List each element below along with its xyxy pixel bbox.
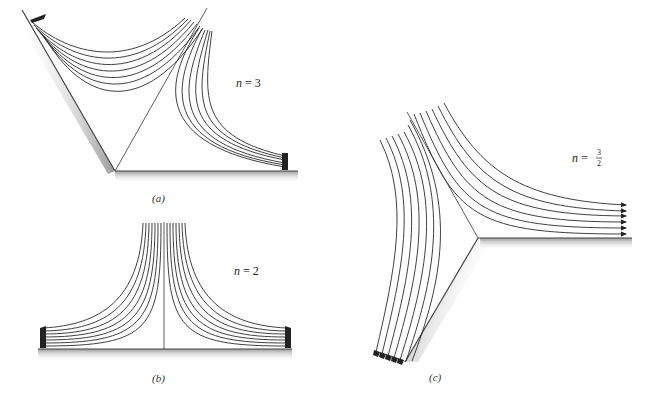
wall-shadow-c-horizontal bbox=[480, 238, 632, 250]
streamlines-right bbox=[176, 28, 285, 167]
streamlines-c-right bbox=[414, 103, 626, 234]
streamlines-b-right bbox=[167, 223, 286, 346]
label-n-2: n = 2 bbox=[234, 264, 259, 278]
wall-shadow-b bbox=[38, 349, 292, 361]
panel-a: n = 3 (a) bbox=[14, 8, 298, 205]
arrow-cluster-b-right bbox=[285, 326, 291, 348]
wall-left bbox=[22, 10, 115, 171]
panel-b: n = 2 (b) bbox=[38, 222, 292, 385]
wall-c-diagonal bbox=[405, 238, 478, 362]
dividing-streamline bbox=[115, 8, 207, 171]
arrow-cluster-c-bottom bbox=[373, 350, 404, 365]
streamlines-b-left bbox=[43, 223, 161, 346]
label-n-3: n = 3 bbox=[236, 76, 261, 90]
caption-b: (b) bbox=[152, 372, 165, 385]
arrow-cluster-a-top bbox=[30, 14, 46, 23]
label-n-3-2-denominator: 2 bbox=[597, 159, 601, 168]
caption-a: (a) bbox=[152, 192, 165, 205]
caption-c: (c) bbox=[429, 371, 442, 384]
wall-shadow-bottom bbox=[115, 171, 298, 183]
wall-shadow-left bbox=[14, 10, 115, 174]
arrow-cluster-b-left bbox=[40, 326, 46, 348]
wall-shadow-c-diagonal bbox=[405, 238, 488, 362]
label-n-3-2: n = bbox=[572, 151, 588, 165]
flow-diagram: n = 3 (a) n = 2 bbox=[0, 0, 646, 395]
label-n-3-2-numerator: 3 bbox=[597, 148, 601, 157]
arrow-cluster-a-right bbox=[282, 153, 288, 170]
panel-c: n = 3 2 (c) bbox=[373, 103, 632, 384]
